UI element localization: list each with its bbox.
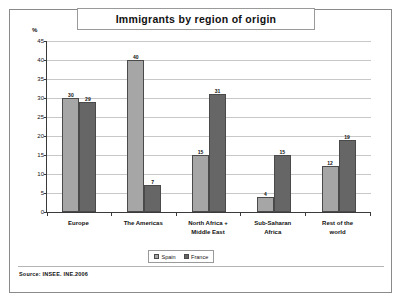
x-axis-label: The Americas xyxy=(111,219,176,228)
x-tick-mark xyxy=(305,212,306,216)
bar-value-label: 30 xyxy=(68,92,74,98)
y-tick-label: 5 xyxy=(41,190,44,196)
chart-figure: Immigrants by region of origin % 0510152… xyxy=(0,0,404,305)
bar-value-label: 15 xyxy=(280,149,286,155)
legend-swatch-icon xyxy=(154,254,159,259)
x-axis-label: North Africa +Middle East xyxy=(176,219,241,236)
x-tick-mark xyxy=(240,212,241,216)
y-tick-label: 20 xyxy=(37,133,44,139)
bar-value-label: 29 xyxy=(85,96,91,102)
x-axis-label-line: North Africa + xyxy=(176,219,241,228)
bar-value-label: 12 xyxy=(327,160,333,166)
source-divider xyxy=(18,266,384,267)
bar-france: 29 xyxy=(79,102,96,212)
x-axis-label-line: world xyxy=(305,228,370,237)
y-tick-label: 40 xyxy=(37,57,44,63)
plot-wrapper: % 051015202530354045302940715314151219 xyxy=(24,36,372,216)
bar-value-label: 7 xyxy=(151,179,154,185)
x-axis-label: Sub-SaharanAfrica xyxy=(240,219,305,236)
bar-france: 7 xyxy=(144,185,161,212)
bar-france: 31 xyxy=(209,94,226,212)
x-axis-label-line: Rest of the xyxy=(305,219,370,228)
bar-spain: 15 xyxy=(192,155,209,212)
y-tick-label: 10 xyxy=(37,171,44,177)
y-tick-label: 0 xyxy=(41,209,44,215)
chart-title-box: Immigrants by region of origin xyxy=(77,8,315,30)
bar-spain: 40 xyxy=(127,60,144,212)
bar-value-label: 15 xyxy=(198,149,204,155)
x-axis-label-line: The Americas xyxy=(111,219,176,228)
bar-group: 415 xyxy=(241,41,306,212)
y-tick-label: 35 xyxy=(37,76,44,82)
bar-spain: 12 xyxy=(322,166,339,212)
x-axis-label: Europe xyxy=(46,219,111,228)
legend-item-france[interactable]: France xyxy=(184,254,209,260)
x-axis-label-line: Sub-Saharan xyxy=(240,219,305,228)
bar-spain: 30 xyxy=(62,98,79,212)
x-axis-label-line: Middle East xyxy=(176,228,241,237)
legend-item-spain[interactable]: Spain xyxy=(154,254,176,260)
bar-value-label: 4 xyxy=(264,191,267,197)
x-axis-label-line: Africa xyxy=(240,228,305,237)
legend-label: Spain xyxy=(162,254,176,260)
y-tick-label: 30 xyxy=(37,95,44,101)
chart-legend: SpainFrance xyxy=(148,250,214,263)
source-note: Source: INSEE. INE.2006 xyxy=(19,271,88,277)
bar-spain: 4 xyxy=(257,197,274,212)
bar-france: 19 xyxy=(339,140,356,212)
y-tick-label: 25 xyxy=(37,114,44,120)
x-tick-mark xyxy=(370,212,371,216)
x-tick-mark xyxy=(111,212,112,216)
x-axis-label: Rest of theworld xyxy=(305,219,370,236)
y-tick-label: 45 xyxy=(37,38,44,44)
plot-area: 051015202530354045302940715314151219 xyxy=(46,41,371,213)
bar-group: 407 xyxy=(112,41,177,212)
x-axis-category-labels: EuropeThe AmericasNorth Africa +Middle E… xyxy=(46,219,371,247)
x-tick-mark xyxy=(176,212,177,216)
y-axis-unit-label: % xyxy=(32,27,37,33)
bar-group: 1219 xyxy=(306,41,371,212)
x-axis-label-line: Europe xyxy=(46,219,111,228)
bar-value-label: 31 xyxy=(215,88,221,94)
bar-value-label: 19 xyxy=(344,134,350,140)
legend-swatch-icon xyxy=(184,254,189,259)
bar-value-label: 40 xyxy=(133,54,139,60)
bar-group: 3029 xyxy=(47,41,112,212)
x-tick-mark xyxy=(47,212,48,216)
chart-title: Immigrants by region of origin xyxy=(116,13,277,25)
bar-group: 1531 xyxy=(177,41,242,212)
bar-france: 15 xyxy=(274,155,291,212)
legend-label: France xyxy=(191,254,208,260)
y-tick-label: 15 xyxy=(37,152,44,158)
